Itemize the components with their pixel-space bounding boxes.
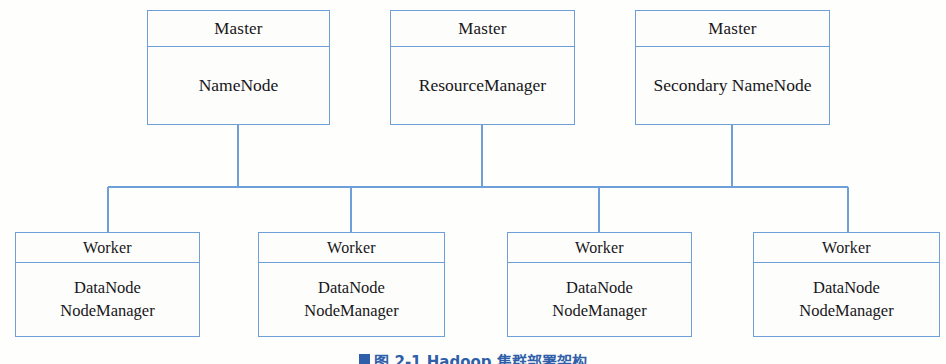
connector-worker-3-drop [598,187,600,232]
master-node-resourcemanager[interactable]: Master ResourceManager [390,10,575,125]
master-node-secondary-namenode[interactable]: Master Secondary NameNode [635,10,830,125]
connector-worker-2-drop [350,187,352,232]
figure-canvas: Master NameNode Master ResourceManager M… [0,0,946,364]
worker-node-role-nodemanager: NodeManager [552,300,646,323]
master-node-body: Secondary NameNode [636,47,829,124]
figure-caption-text: 图 2-1 Hadoop 集群部署架构 [374,353,587,364]
master-node-role: ResourceManager [419,73,546,97]
master-node-header: Master [148,11,329,47]
worker-node-role-datanode: DataNode [566,277,633,300]
worker-node-2[interactable]: Worker DataNode NodeManager [258,232,445,337]
master-node-body: NameNode [148,47,329,124]
worker-node-role-nodemanager: NodeManager [799,300,893,323]
master-node-header: Master [391,11,574,47]
worker-node-header: Worker [16,233,199,263]
worker-node-header: Worker [508,233,691,263]
figure-caption: 图 2-1 Hadoop 集群部署架构 [0,350,946,364]
connector-horizontal-bus [108,186,848,188]
worker-node-role-nodemanager: NodeManager [60,300,154,323]
worker-node-body: DataNode NodeManager [16,263,199,336]
worker-node-1[interactable]: Worker DataNode NodeManager [15,232,200,337]
worker-node-4[interactable]: Worker DataNode NodeManager [753,232,940,337]
worker-node-role-nodemanager: NodeManager [304,300,398,323]
master-node-role: Secondary NameNode [654,73,812,97]
connector-master-2-drop [481,125,483,187]
figure-caption-marker-icon [359,354,370,364]
worker-node-body: DataNode NodeManager [259,263,444,336]
master-node-header: Master [636,11,829,47]
worker-node-header: Worker [259,233,444,263]
connector-worker-4-drop [847,187,849,232]
master-node-role: NameNode [199,73,279,97]
master-node-namenode[interactable]: Master NameNode [147,10,330,125]
worker-node-role-datanode: DataNode [813,277,880,300]
worker-node-3[interactable]: Worker DataNode NodeManager [507,232,692,337]
worker-node-header: Worker [754,233,939,263]
worker-node-role-datanode: DataNode [74,277,141,300]
worker-node-role-datanode: DataNode [318,277,385,300]
worker-node-body: DataNode NodeManager [508,263,691,336]
master-node-body: ResourceManager [391,47,574,124]
worker-node-body: DataNode NodeManager [754,263,939,336]
connector-master-1-drop [237,125,239,187]
connector-master-3-drop [731,125,733,187]
connector-worker-1-drop [107,187,109,232]
